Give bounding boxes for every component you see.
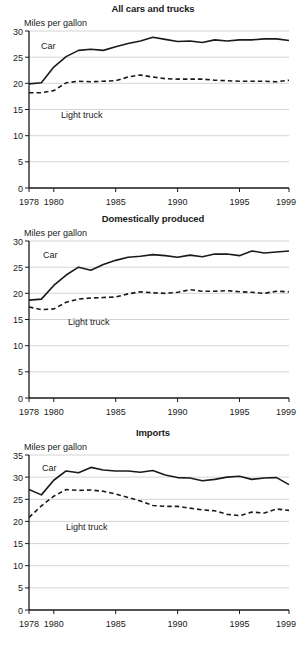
y-tick-label: 20: [13, 79, 23, 89]
y-tick-label: 20: [13, 289, 23, 299]
y-tick-label: 30: [13, 27, 23, 37]
y-tick-label: 20: [13, 517, 23, 527]
y-tick-label: 0: [18, 394, 23, 404]
series-annotation-car: Car: [43, 250, 58, 260]
x-tick-label: 1999: [276, 619, 296, 629]
x-tick-label: 1985: [106, 197, 126, 207]
gridlines: [29, 31, 289, 162]
y-tick-label: 10: [13, 561, 23, 571]
x-tick-label: 1978: [19, 407, 39, 417]
y-tick-label: 0: [18, 184, 23, 194]
x-tick-label: 1980: [44, 197, 64, 207]
x-tick-labels: 1978 1980 1985 1990 1995 1999: [19, 619, 296, 629]
x-tick-label: 1980: [44, 619, 64, 629]
chart-plot-area: 35 30 25 20 15 10 5 0 1978 1980 1985 199…: [0, 420, 306, 647]
series-line-light-truck: [29, 75, 289, 93]
x-tick-label: 1978: [19, 197, 39, 207]
chart-plot-area: 30 25 20 15 10 5 0 1978 1980 1985 1990 1…: [0, 210, 306, 420]
series-annotation-car: Car: [41, 41, 56, 51]
y-tick-label: 5: [18, 583, 23, 593]
series-line-car: [29, 467, 289, 494]
x-tick-label: 1985: [106, 407, 126, 417]
y-tick-labels: 35 30 25 20 15 10 5 0: [13, 451, 23, 616]
y-tick-label: 5: [18, 367, 23, 377]
y-tick-label: 10: [13, 341, 23, 351]
y-tick-label: 25: [13, 495, 23, 505]
chart-svg-domestically-produced: 30 25 20 15 10 5 0 1978 1980 1985 1990 1…: [0, 210, 306, 420]
x-tick-label: 1978: [19, 619, 39, 629]
x-tick-label: 1995: [229, 619, 249, 629]
chart-svg-all-cars-and-trucks: 30 25 20 15 10 5 0 1978 1980 1985 1990 1…: [0, 0, 306, 210]
series-line-car: [29, 251, 289, 300]
x-tick-labels: 1978 1980 1985 1990 1995 1999: [19, 407, 296, 417]
x-tick-label: 1990: [168, 619, 188, 629]
y-tick-labels: 30 25 20 15 10 5 0: [13, 27, 23, 194]
x-tick-label: 1990: [168, 407, 188, 417]
x-tick-label: 1995: [229, 197, 249, 207]
x-tick-label: 1999: [276, 197, 296, 207]
y-tick-label: 10: [13, 131, 23, 141]
chart-panel-imports: Imports Miles per gallon: [0, 420, 306, 647]
y-tick-label: 15: [13, 105, 23, 115]
y-tick-label: 30: [13, 473, 23, 483]
chart-panel-all-cars-and-trucks: All cars and trucks Miles per gallon: [0, 0, 306, 210]
x-tick-label: 1990: [168, 197, 188, 207]
y-tick-label: 15: [13, 539, 23, 549]
x-tick-labels: 1978 1980 1985 1990 1995 1999: [19, 197, 296, 207]
series-annotation-car: Car: [42, 463, 57, 473]
series-annotation-light-truck: Light truck: [66, 522, 108, 532]
series-line-light-truck: [29, 290, 289, 310]
figure-container: All cars and trucks Miles per gallon: [0, 0, 306, 647]
y-tick-label: 25: [13, 53, 23, 63]
chart-panel-domestically-produced: Domestically produced Miles per gallon: [0, 210, 306, 420]
y-tick-label: 0: [18, 606, 23, 616]
series-line-light-truck: [29, 490, 289, 518]
chart-plot-area: 30 25 20 15 10 5 0 1978 1980 1985 1990 1…: [0, 0, 306, 210]
y-tick-labels: 30 25 20 15 10 5 0: [13, 237, 23, 404]
x-tick-label: 1980: [44, 407, 64, 417]
y-tick-label: 5: [18, 157, 23, 167]
chart-svg-imports: 35 30 25 20 15 10 5 0 1978 1980 1985 199…: [0, 420, 306, 647]
x-tick-label: 1985: [106, 619, 126, 629]
y-tick-label: 15: [13, 315, 23, 325]
y-tick-label: 25: [13, 263, 23, 273]
series-annotation-light-truck: Light truck: [61, 110, 103, 120]
gridlines: [29, 241, 289, 372]
x-tick-label: 1995: [229, 407, 249, 417]
y-tick-label: 30: [13, 237, 23, 247]
y-tick-label: 35: [13, 451, 23, 461]
series-line-car: [29, 37, 289, 84]
x-tick-label: 1999: [276, 407, 296, 417]
series-annotation-light-truck: Light truck: [68, 317, 110, 327]
